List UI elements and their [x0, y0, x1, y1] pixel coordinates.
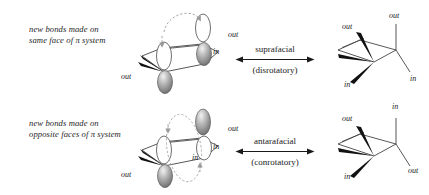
- ring-skeleton: [338, 118, 410, 166]
- orbital-label-in-right: in: [213, 47, 219, 56]
- caption-line-1: new bonds made on: [29, 118, 121, 129]
- arrow-label-conrotatory: (conrotatory): [232, 157, 318, 167]
- ring-skeleton: [338, 24, 410, 72]
- product-label-in-lower-left: in: [344, 172, 350, 181]
- arrow-label-suprafacial: suprafacial: [232, 44, 318, 54]
- orbital-label-out-left: out: [121, 72, 131, 81]
- wedge-bonds-product: [338, 32, 374, 84]
- p-orbital-left: [157, 42, 173, 94]
- caption-antarafacial: new bonds made on opposite faces of π sy…: [29, 118, 121, 140]
- arrow-label-antarafacial: antarafacial: [232, 136, 318, 146]
- arrow-label-disrotatory: (disrotatory): [232, 65, 318, 75]
- product-label-out-upper-right: out: [389, 11, 399, 20]
- reaction-row-antarafacial: new bonds made on opposite faces of π sy…: [0, 98, 429, 195]
- orbital-label-in-center: in: [192, 153, 198, 162]
- product-label-out-lower-right: out: [408, 166, 418, 175]
- product-label-out-upper-left: out: [342, 114, 352, 123]
- structure-product-antarafacial: out in out in: [330, 104, 422, 186]
- reaction-arrow-suprafacial: suprafacial (disrotatory): [232, 44, 318, 75]
- reaction-arrow-antarafacial: antarafacial (conrotatory): [232, 136, 318, 167]
- orbital-label-out-left: out: [121, 170, 131, 179]
- orbital-label-out-right: out: [228, 30, 238, 39]
- product-label-in-upper-right: in: [392, 102, 398, 111]
- caption-suprafacial: new bonds made on same face of π system: [29, 24, 106, 46]
- caption-line-2: opposite faces of π system: [29, 129, 121, 140]
- caption-line-1: new bonds made on: [29, 24, 106, 35]
- structure-reactant-suprafacial: out in out: [128, 6, 228, 94]
- product-label-in-lower-left: in: [344, 80, 350, 89]
- reaction-row-suprafacial: new bonds made on same face of π system: [0, 0, 429, 97]
- orbital-label-out-right: out: [228, 124, 238, 133]
- structure-product-suprafacial: out out in in: [330, 10, 422, 90]
- double-headed-arrow-icon: [235, 55, 315, 64]
- wedge-bonds-product: [338, 126, 374, 178]
- p-orbital-left: [157, 136, 173, 188]
- product-label-out-upper-left: out: [342, 22, 352, 31]
- structure-reactant-antarafacial: out in in out: [128, 100, 228, 192]
- orbital-label-in-right: in: [213, 142, 219, 151]
- p-orbital-right: [196, 14, 212, 66]
- product-label-in-lower-right: in: [410, 74, 416, 83]
- caption-line-2: same face of π system: [29, 35, 106, 46]
- rotation-arrows-disrotatory: [162, 13, 200, 46]
- double-headed-arrow-icon: [235, 147, 315, 156]
